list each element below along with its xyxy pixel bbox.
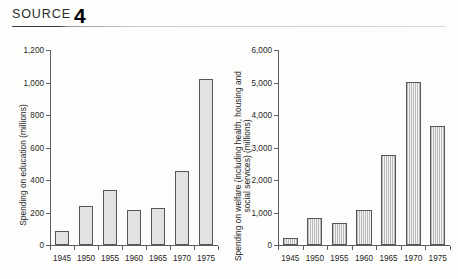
y-axis-line-education (50, 50, 51, 246)
y-axis-title-education: Spending on education (millions) (19, 72, 29, 258)
x-tick-welfare (352, 246, 353, 250)
x-tick-welfare (327, 246, 328, 250)
bar-education-1965 (151, 208, 166, 245)
bar-education-1960 (127, 210, 142, 245)
x-tick-label-welfare: 1975 (429, 254, 447, 263)
y-tick-label-welfare: 3,000 (252, 143, 273, 152)
x-tick-label-welfare: 1965 (379, 254, 397, 263)
x-tick-education (146, 246, 147, 250)
bar-education-1975 (199, 79, 214, 245)
y-tick-label-education: 800 (30, 111, 44, 120)
x-tick-education (170, 246, 171, 250)
x-tick-label-education: 1955 (101, 254, 119, 263)
x-tick-label-education: 1945 (53, 254, 71, 263)
x-tick-label-welfare: 1960 (355, 254, 373, 263)
bar-welfare-1975 (430, 126, 445, 245)
x-tick-welfare (450, 246, 451, 250)
y-tick-label-education: 0 (39, 241, 44, 250)
y-tick-label-education: 1,000 (24, 78, 45, 87)
x-tick-education (218, 246, 219, 250)
y-tick-education (46, 83, 50, 84)
y-tick-education (46, 115, 50, 116)
bar-welfare-1970 (406, 82, 421, 245)
y-tick-label-education: 600 (30, 143, 44, 152)
y-tick-label-welfare: 5,000 (252, 78, 273, 87)
x-tick-education (50, 246, 51, 250)
source-number: 4 (74, 4, 86, 28)
source-header: SOURCE 4 (12, 4, 446, 30)
y-axis-title-welfare: Spending on welfare (including health, h… (234, 70, 253, 262)
x-tick-welfare (376, 246, 377, 250)
y-tick-welfare (274, 83, 278, 84)
x-tick-education (122, 246, 123, 250)
chart-welfare: Spending on welfare (including health, h… (228, 40, 454, 276)
chart-education: Spending on education (millions) 0200400… (6, 40, 228, 276)
y-tick-label-welfare: 6,000 (252, 46, 273, 55)
bar-welfare-1955 (332, 223, 347, 245)
x-tick-label-welfare: 1945 (281, 254, 299, 263)
y-tick-education (46, 180, 50, 181)
bar-education-1970 (175, 171, 190, 245)
y-tick-label-education: 1,200 (24, 46, 45, 55)
y-axis-line-welfare (278, 50, 279, 246)
y-tick-education (46, 148, 50, 149)
x-axis-line-education (50, 245, 218, 246)
bar-welfare-1965 (381, 155, 396, 245)
x-tick-welfare (425, 246, 426, 250)
x-tick-education (194, 246, 195, 250)
bar-welfare-1960 (356, 210, 371, 245)
x-tick-welfare (278, 246, 279, 250)
y-tick-welfare (274, 213, 278, 214)
x-tick-label-education: 1965 (149, 254, 167, 263)
x-tick-welfare (401, 246, 402, 250)
x-tick-label-welfare: 1950 (306, 254, 324, 263)
y-tick-label-education: 200 (30, 208, 44, 217)
y-tick-welfare (274, 115, 278, 116)
bar-welfare-1945 (283, 238, 298, 245)
x-tick-label-education: 1950 (77, 254, 95, 263)
plot-area-welfare: 01,0002,0003,0004,0005,0006,000194519501… (278, 50, 450, 246)
plot-area-education: 02004006008001,0001,20019451950195519601… (50, 50, 218, 246)
y-tick-education (46, 213, 50, 214)
header-divider (12, 26, 446, 27)
x-tick-label-welfare: 1970 (404, 254, 422, 263)
y-tick-label-education: 400 (30, 176, 44, 185)
x-tick-label-welfare: 1955 (330, 254, 348, 263)
bar-education-1950 (79, 206, 94, 245)
y-tick-welfare (274, 180, 278, 181)
bar-education-1955 (103, 190, 118, 245)
y-tick-label-welfare: 0 (267, 241, 272, 250)
source-label: SOURCE (12, 7, 71, 21)
y-tick-welfare (274, 148, 278, 149)
x-tick-welfare (303, 246, 304, 250)
bar-welfare-1950 (307, 218, 322, 245)
x-tick-education (98, 246, 99, 250)
bar-education-1945 (55, 231, 70, 245)
x-tick-education (74, 246, 75, 250)
y-tick-label-welfare: 4,000 (252, 111, 273, 120)
x-tick-label-education: 1970 (173, 254, 191, 263)
y-tick-education (46, 50, 50, 51)
page-canvas: SOURCE 4 Spending on education (millions… (0, 0, 458, 279)
y-tick-label-welfare: 2,000 (252, 176, 273, 185)
y-tick-label-welfare: 1,000 (252, 208, 273, 217)
y-tick-welfare (274, 50, 278, 51)
x-tick-label-education: 1975 (197, 254, 215, 263)
x-tick-label-education: 1960 (125, 254, 143, 263)
